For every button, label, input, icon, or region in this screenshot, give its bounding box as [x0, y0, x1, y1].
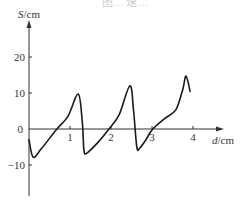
- y-axis-arrow-icon: [27, 20, 32, 28]
- x-tick-label: 4: [190, 131, 196, 143]
- y-tick-label: −10: [8, 159, 26, 171]
- chart: 图… 速… S/cm d/cm 1234−1001020: [0, 0, 250, 207]
- x-tick-label: 2: [108, 131, 114, 143]
- y-axis-label: S/cm: [18, 8, 40, 20]
- data-line: [29, 76, 190, 157]
- x-tick-label: 1: [67, 131, 73, 143]
- x-axis-arrow-icon: [216, 127, 224, 132]
- ticks: 1234−1001020: [8, 51, 196, 171]
- y-tick-label: 20: [14, 51, 26, 63]
- origin-label: 0: [18, 123, 24, 135]
- y-tick-label: 10: [14, 87, 26, 99]
- x-axis-label: d/cm: [212, 134, 234, 146]
- figure-caption: 图… 速…: [102, 0, 149, 8]
